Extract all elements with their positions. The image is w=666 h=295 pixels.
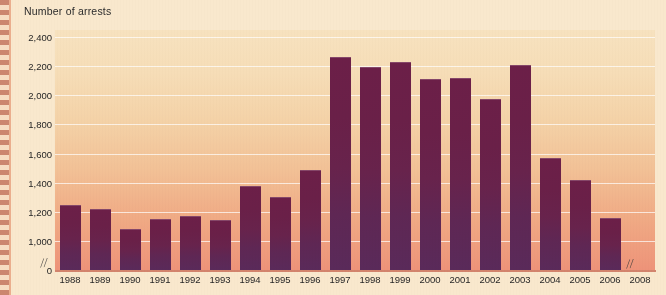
gridline <box>55 95 655 96</box>
bar <box>450 78 471 270</box>
bar <box>270 197 291 270</box>
x-axis-baseline <box>55 270 656 272</box>
x-axis-tick-label: 1989 <box>89 274 110 285</box>
bar <box>540 158 561 270</box>
x-axis-tick-label: 2000 <box>419 274 440 285</box>
x-axis-tick-label: 2002 <box>479 274 500 285</box>
y-axis-tick-label: 1,000 <box>4 236 52 247</box>
plot-area <box>55 30 655 270</box>
bar <box>360 67 381 270</box>
x-axis-tick-label: 2006 <box>599 274 620 285</box>
bar <box>390 62 411 270</box>
x-axis-tick-label: 1993 <box>209 274 230 285</box>
gridline <box>55 154 655 155</box>
y-axis-tick-label: 1,600 <box>4 148 52 159</box>
bar <box>150 219 171 270</box>
gridline <box>55 183 655 184</box>
page-perforation-edge <box>0 0 9 295</box>
bar <box>330 57 351 270</box>
y-axis-tick-label: 1,200 <box>4 206 52 217</box>
y-axis-tick-label: 2,200 <box>4 61 52 72</box>
bar <box>180 216 201 271</box>
page-edge-line <box>9 0 11 295</box>
x-axis-tick-label: 1998 <box>359 274 380 285</box>
x-axis-tick-label: 1995 <box>269 274 290 285</box>
gridline <box>55 37 655 38</box>
gridline <box>55 124 655 125</box>
y-axis-tick-label: 1,800 <box>4 119 52 130</box>
chart-title: Number of arrests <box>24 5 111 17</box>
bar <box>120 229 141 270</box>
bar <box>210 220 231 270</box>
x-axis-tick-label: 1994 <box>239 274 260 285</box>
x-axis-tick-label: 2008 <box>629 274 650 285</box>
y-axis-tick-label: 2,400 <box>4 32 52 43</box>
x-axis-tick-label: 2003 <box>509 274 530 285</box>
x-axis-tick-label: 1999 <box>389 274 410 285</box>
x-axis-tick-label: 2001 <box>449 274 470 285</box>
chart-screenshot: 2,4002,2002,0001,8001,6001,4001,2001,000… <box>0 0 666 295</box>
x-axis-tick-label: 1990 <box>119 274 140 285</box>
bar <box>510 65 531 270</box>
x-axis-tick-label: 1996 <box>299 274 320 285</box>
x-axis-tick-label: 1992 <box>179 274 200 285</box>
bar <box>570 180 591 270</box>
y-axis-tick-label: 1,400 <box>4 177 52 188</box>
bar <box>480 99 501 270</box>
x-axis-tick-label: 1991 <box>149 274 170 285</box>
gridline <box>55 241 655 242</box>
bar <box>240 186 261 270</box>
gridline <box>55 66 655 67</box>
bar <box>60 205 81 270</box>
bar <box>300 170 321 270</box>
x-axis-tick-label: 1997 <box>329 274 350 285</box>
gridline <box>55 212 655 213</box>
x-axis-tick-label: 1988 <box>59 274 80 285</box>
x-axis-tick-label: 2004 <box>539 274 560 285</box>
bar <box>420 79 441 270</box>
bar <box>600 218 621 270</box>
bar <box>90 209 111 270</box>
x-axis-tick-label: 2005 <box>569 274 590 285</box>
y-axis-tick-label: 2,000 <box>4 90 52 101</box>
